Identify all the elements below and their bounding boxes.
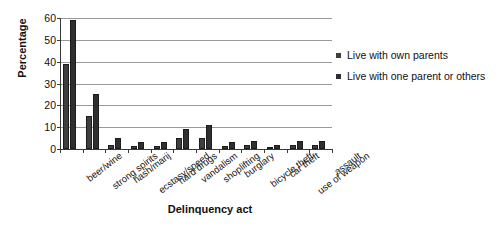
bar-group xyxy=(85,18,108,149)
bar xyxy=(206,125,212,149)
x-axis-title: Delinquency act xyxy=(100,203,320,215)
chart-legend: Live with own parentsLive with one paren… xyxy=(336,49,501,91)
bar xyxy=(290,145,296,149)
legend-swatch xyxy=(336,53,341,58)
y-tick-label: 0 xyxy=(50,144,56,154)
bar xyxy=(312,145,318,149)
y-tick-label: 30 xyxy=(44,79,56,89)
bar xyxy=(222,146,228,149)
bar-group xyxy=(130,18,153,149)
bar xyxy=(251,141,257,149)
bar xyxy=(267,147,273,149)
bar xyxy=(183,129,189,149)
bar xyxy=(70,20,76,149)
bar xyxy=(131,146,137,149)
y-tick-label: 60 xyxy=(44,13,56,23)
y-tick-label: 20 xyxy=(44,100,56,110)
legend-label: Live with one parent or others xyxy=(347,70,485,82)
bar-group xyxy=(198,18,221,149)
y-tick-label: 50 xyxy=(44,35,56,45)
legend-swatch xyxy=(336,74,341,79)
bar-group xyxy=(107,18,130,149)
bar-series-container xyxy=(60,18,332,149)
bar-group xyxy=(266,18,289,149)
bar-group xyxy=(153,18,176,149)
bar xyxy=(115,138,121,149)
y-tick-label: 10 xyxy=(44,122,56,132)
bar-group xyxy=(175,18,198,149)
bar-group xyxy=(289,18,312,149)
bar-group xyxy=(243,18,266,149)
y-tick-label: 40 xyxy=(44,57,56,67)
bar-group xyxy=(311,18,334,149)
bar xyxy=(86,116,92,149)
x-axis-tick-labels: beer/winestrong spiritshash/marijecstasy… xyxy=(60,150,350,205)
bar xyxy=(274,145,280,149)
bar-chart: Percentage 0102030405060 beer/winestrong… xyxy=(0,0,501,230)
bar-group xyxy=(221,18,244,149)
bar xyxy=(154,146,160,149)
bar-group xyxy=(62,18,85,149)
plot-area: 0102030405060 xyxy=(60,18,332,149)
bar xyxy=(93,94,99,149)
bar xyxy=(176,138,182,149)
bar xyxy=(297,141,303,149)
bar xyxy=(161,142,167,149)
bar xyxy=(229,142,235,149)
bar xyxy=(63,64,69,149)
y-axis-title: Percentage xyxy=(16,0,28,108)
bar xyxy=(319,141,325,149)
legend-label: Live with own parents xyxy=(347,49,448,61)
bar xyxy=(199,138,205,149)
bar xyxy=(108,145,114,149)
legend-item: Live with own parents xyxy=(336,49,501,61)
bar xyxy=(138,142,144,149)
legend-item: Live with one parent or others xyxy=(336,70,501,82)
bar xyxy=(244,145,250,149)
